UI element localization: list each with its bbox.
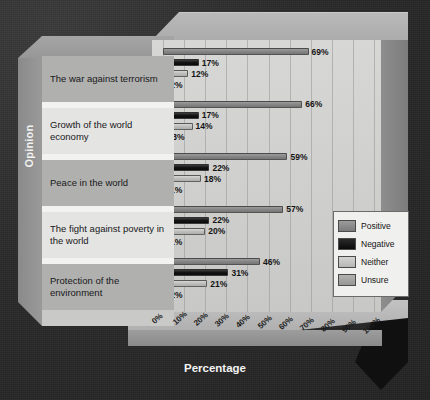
category-label: The fight against poverty in the world bbox=[50, 223, 168, 248]
bar-value-label: 46% bbox=[263, 258, 280, 267]
bar-value-label: 59% bbox=[290, 153, 307, 162]
gridline bbox=[311, 40, 312, 312]
bar-value-label: 17% bbox=[202, 111, 219, 120]
y-axis-title: Opinion bbox=[23, 111, 35, 181]
bar-value-label: 20% bbox=[208, 227, 225, 236]
category-label: Growth of the world economy bbox=[50, 119, 168, 144]
category-label: Protection of the environment bbox=[50, 275, 168, 300]
legend-label: Neither bbox=[361, 257, 388, 267]
bar-value-label: 17% bbox=[202, 59, 219, 68]
category-label-panel: The war against terrorismGrowth of the w… bbox=[42, 58, 174, 326]
bar-value-label: 69% bbox=[312, 48, 329, 57]
gridline bbox=[269, 40, 270, 312]
bar-positive bbox=[163, 48, 309, 55]
category-panel-left-wall bbox=[18, 58, 42, 326]
bar-value-label: 21% bbox=[210, 280, 227, 289]
x-axis-title: Percentage bbox=[0, 362, 430, 374]
legend-item: Negative bbox=[338, 235, 404, 253]
legend-swatch-negative bbox=[338, 238, 356, 250]
bar-positive bbox=[163, 101, 302, 108]
bar-value-label: 12% bbox=[191, 70, 208, 79]
legend-item: Unsure bbox=[338, 271, 404, 289]
bar-positive bbox=[163, 153, 287, 160]
legend-label: Positive bbox=[361, 221, 391, 231]
legend: PositiveNegativeNeitherUnsure bbox=[333, 211, 409, 297]
bar-positive bbox=[163, 258, 260, 265]
category-panel-top bbox=[18, 36, 174, 58]
legend-swatch-unsure bbox=[338, 274, 356, 286]
bar-value-label: 22% bbox=[212, 216, 229, 225]
legend-item: Positive bbox=[338, 217, 404, 235]
legend-swatch-neither bbox=[338, 256, 356, 268]
bar-value-label: 3% bbox=[172, 133, 184, 142]
bar-value-label: 66% bbox=[305, 100, 322, 109]
bar-value-label: 22% bbox=[212, 164, 229, 173]
bar-value-label: 57% bbox=[286, 205, 303, 214]
category-row: The fight against poverty in the world bbox=[42, 212, 174, 258]
category-row: The war against terrorism bbox=[42, 56, 174, 102]
bar-value-label: 31% bbox=[231, 269, 248, 278]
legend-label: Negative bbox=[361, 239, 395, 249]
bar-positive bbox=[163, 206, 283, 213]
legend-swatch-positive bbox=[338, 220, 356, 232]
legend-label: Unsure bbox=[361, 275, 388, 285]
legend-item: Neither bbox=[338, 253, 404, 271]
category-row: Peace in the world bbox=[42, 160, 174, 206]
bar-value-label: 18% bbox=[204, 175, 221, 184]
bar-value-label: 14% bbox=[196, 122, 213, 131]
category-row: Growth of the world economy bbox=[42, 108, 174, 154]
category-label: Peace in the world bbox=[50, 177, 128, 190]
plot-block-top bbox=[152, 12, 408, 41]
gridline bbox=[290, 40, 291, 312]
category-label: The war against terrorism bbox=[50, 73, 158, 86]
category-row: Protection of the environment bbox=[42, 264, 174, 310]
chart-screenshot: 69%17%12%2%66%17%14%3%59%22%18%1%57%22%2… bbox=[0, 0, 430, 400]
